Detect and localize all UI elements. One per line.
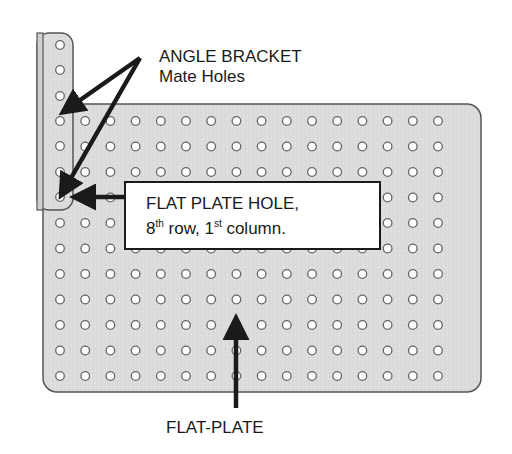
plate-hole: [157, 142, 166, 151]
plate-hole: [232, 142, 241, 151]
plate-hole: [257, 372, 266, 381]
plate-hole: [81, 321, 90, 330]
angle-bracket-flange: [37, 33, 43, 210]
angle-bracket-title: ANGLE BRACKET: [159, 47, 302, 67]
plate-hole: [257, 270, 266, 279]
plate-hole: [257, 346, 266, 355]
bracket-hole: [56, 193, 65, 202]
plate-hole: [308, 295, 317, 304]
plate-hole: [131, 168, 140, 177]
plate-hole: [283, 168, 292, 177]
plate-hole: [434, 295, 443, 304]
plate-hole: [358, 117, 367, 126]
plate-hole: [106, 142, 115, 151]
diagram-stage: ANGLE BRACKET Mate Holes FLAT PLATE HOLE…: [0, 0, 512, 454]
plate-hole: [131, 270, 140, 279]
plate-hole: [106, 321, 115, 330]
plate-hole: [358, 168, 367, 177]
callout-line-1: FLAT PLATE HOLE,: [146, 191, 299, 216]
row-word: row,: [164, 219, 205, 238]
plate-hole: [182, 295, 191, 304]
plate-hole: [308, 142, 317, 151]
plate-hole: [333, 295, 342, 304]
plate-hole: [81, 270, 90, 279]
plate-hole: [409, 193, 418, 202]
plate-hole: [257, 321, 266, 330]
plate-hole: [333, 346, 342, 355]
plate-hole: [434, 193, 443, 202]
bracket-hole: [56, 92, 65, 101]
plate-hole: [283, 295, 292, 304]
plate-hole: [56, 346, 65, 355]
column-number: 1: [204, 219, 213, 238]
plate-hole: [358, 321, 367, 330]
bracket-hole: [56, 66, 65, 75]
plate-hole: [157, 295, 166, 304]
plate-hole: [333, 321, 342, 330]
plate-hole: [358, 142, 367, 151]
bracket-hole: [56, 168, 65, 177]
plate-hole: [383, 117, 392, 126]
plate-hole: [383, 346, 392, 355]
arrow-angle-to-upper-mate-hole: [66, 58, 140, 110]
angle-bracket-subtitle: Mate Holes: [159, 67, 302, 87]
plate-hole: [409, 168, 418, 177]
plate-hole: [207, 321, 216, 330]
plate-hole: [106, 219, 115, 228]
plate-hole: [106, 372, 115, 381]
plate-hole: [157, 346, 166, 355]
plate-hole: [157, 117, 166, 126]
plate-hole: [56, 219, 65, 228]
plate-hole: [157, 321, 166, 330]
plate-hole: [434, 346, 443, 355]
plate-hole: [409, 244, 418, 253]
plate-hole: [434, 321, 443, 330]
plate-hole: [157, 270, 166, 279]
plate-hole: [232, 270, 241, 279]
plate-hole: [409, 321, 418, 330]
plate-hole: [308, 321, 317, 330]
plate-hole: [257, 142, 266, 151]
plate-hole: [434, 168, 443, 177]
plate-hole: [131, 295, 140, 304]
plate-hole: [81, 117, 90, 126]
column-word: column.: [222, 219, 286, 238]
plate-hole: [157, 372, 166, 381]
plate-hole: [383, 295, 392, 304]
plate-hole: [383, 168, 392, 177]
plate-hole: [207, 270, 216, 279]
plate-hole: [409, 346, 418, 355]
plate-hole: [383, 142, 392, 151]
plate-hole: [383, 244, 392, 253]
angle-bracket-label: ANGLE BRACKET Mate Holes: [159, 47, 302, 87]
column-suffix: st: [214, 218, 222, 229]
plate-hole: [333, 142, 342, 151]
plate-hole: [106, 295, 115, 304]
flat-plate-hole-callout: FLAT PLATE HOLE, 8th row, 1st column.: [124, 181, 381, 250]
plate-hole: [333, 117, 342, 126]
plate-hole: [56, 321, 65, 330]
plate-hole: [333, 168, 342, 177]
plate-hole: [106, 346, 115, 355]
plate-hole: [383, 193, 392, 202]
plate-hole: [182, 142, 191, 151]
plate-hole: [106, 270, 115, 279]
plate-hole: [358, 270, 367, 279]
plate-hole: [283, 117, 292, 126]
plate-hole: [106, 244, 115, 253]
bracket-hole: [56, 142, 65, 151]
row-suffix: th: [155, 218, 163, 229]
plate-hole: [383, 372, 392, 381]
plate-hole: [131, 142, 140, 151]
plate-hole: [383, 270, 392, 279]
plate-hole: [81, 219, 90, 228]
plate-hole: [207, 295, 216, 304]
plate-hole: [207, 168, 216, 177]
plate-hole: [308, 372, 317, 381]
plate-hole: [81, 244, 90, 253]
plate-hole: [409, 295, 418, 304]
plate-hole: [232, 168, 241, 177]
plate-hole: [56, 295, 65, 304]
plate-hole: [283, 346, 292, 355]
plate-hole: [409, 117, 418, 126]
